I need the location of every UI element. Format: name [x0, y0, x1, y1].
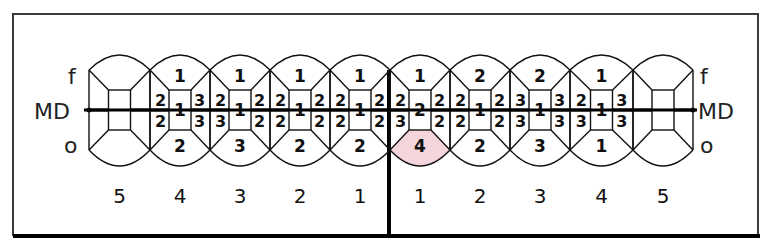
facial-arc [89, 55, 150, 70]
score-center: 1 [354, 100, 366, 120]
diag-top-left [89, 70, 109, 90]
score-md-left-top: 2 [576, 91, 587, 110]
diag-bottom-left [510, 130, 529, 150]
score-center: 1 [534, 100, 546, 120]
score-md-left-bottom: 2 [275, 112, 286, 131]
score-facial: 2 [474, 66, 486, 86]
score-md-left-top: 2 [275, 91, 286, 110]
tooth-right-5: 5 [633, 55, 693, 208]
tooth-number-label: 1 [414, 184, 427, 208]
diag-top-right [431, 70, 450, 90]
score-center: 1 [474, 100, 486, 120]
score-md-left-bottom: 3 [515, 112, 526, 131]
score-md-left-bottom: 3 [215, 112, 226, 131]
diag-top-left [210, 70, 229, 90]
diag-bottom-right [191, 130, 210, 150]
tooth-left-3: 13123223 [210, 55, 270, 208]
facial-arc [633, 55, 693, 70]
diag-bottom-right [551, 130, 570, 150]
score-md-left-top: 2 [395, 91, 406, 110]
score-md-right-bottom: 2 [314, 112, 325, 131]
tooth-left-5: 5 [89, 55, 150, 208]
diag-top-left [150, 70, 169, 90]
diag-bottom-left [570, 130, 591, 150]
score-md-right-bottom: 2 [494, 112, 505, 131]
diag-bottom-left [330, 130, 349, 150]
tooth-number-label: 1 [354, 184, 367, 208]
score-oral: 3 [234, 136, 246, 156]
diag-bottom-left [150, 130, 169, 150]
diag-bottom-left [89, 130, 109, 150]
tooth-left-2: 12122222 [270, 55, 330, 208]
score-md-left-top: 2 [215, 91, 226, 110]
score-md-right-top: 2 [494, 91, 505, 110]
score-md-right-top: 2 [314, 91, 325, 110]
diag-top-right [551, 70, 570, 90]
oral-arc [89, 150, 150, 166]
score-md-right-bottom: 3 [554, 112, 565, 131]
diag-top-right [131, 70, 151, 90]
tooth-right-4: 11123334 [570, 55, 633, 208]
score-facial: 1 [596, 66, 608, 86]
tooth-right-3: 23133333 [510, 55, 570, 208]
tooth-number-label: 2 [474, 184, 487, 208]
diag-bottom-right [251, 130, 270, 150]
diag-top-left [510, 70, 529, 90]
score-md-right-bottom: 2 [254, 112, 265, 131]
score-facial: 1 [414, 66, 426, 86]
tooth-number-label: 3 [234, 184, 247, 208]
score-md-right-top: 2 [434, 91, 445, 110]
label-md-left: MD [34, 99, 70, 124]
tooth-left-1: 12122221 [330, 55, 390, 208]
score-oral: 3 [534, 136, 546, 156]
tooth-left-4: 12122334 [150, 55, 210, 208]
tooth-right-1: 14223221 [390, 55, 450, 208]
score-facial: 1 [174, 66, 186, 86]
tooth-number-label: 2 [294, 184, 307, 208]
tooth-right-2: 22122222 [450, 55, 510, 208]
score-center: 1 [596, 100, 608, 120]
score-md-right-bottom: 3 [616, 112, 627, 131]
score-center: 1 [234, 100, 246, 120]
label-oral-left: o [64, 133, 77, 158]
diag-top-right [674, 70, 693, 90]
diag-bottom-left [450, 130, 469, 150]
diag-bottom-left [633, 130, 652, 150]
score-center: 2 [414, 100, 426, 120]
diag-top-right [251, 70, 270, 90]
score-facial: 1 [354, 66, 366, 86]
diag-top-right [191, 70, 210, 90]
score-md-left-bottom: 2 [155, 112, 166, 131]
score-facial: 1 [234, 66, 246, 86]
score-md-right-top: 2 [374, 91, 385, 110]
tooth-number-label: 3 [534, 184, 547, 208]
score-oral: 1 [596, 136, 608, 156]
score-md-right-top: 3 [554, 91, 565, 110]
score-md-left-bottom: 3 [576, 112, 587, 131]
score-md-left-bottom: 3 [395, 112, 406, 131]
tooth-number-label: 5 [113, 184, 126, 208]
score-md-right-bottom: 2 [374, 112, 385, 131]
diag-top-right [613, 70, 634, 90]
score-md-right-bottom: 3 [194, 112, 205, 131]
oral-arc [633, 150, 693, 166]
diag-bottom-right [491, 130, 510, 150]
diag-top-left [390, 70, 409, 90]
score-center: 1 [294, 100, 306, 120]
score-md-right-top: 2 [254, 91, 265, 110]
score-facial: 1 [294, 66, 306, 86]
diag-bottom-left [210, 130, 229, 150]
diag-top-left [633, 70, 652, 90]
tooth-number-label: 4 [174, 184, 187, 208]
diag-bottom-left [270, 130, 289, 150]
dental-chart: 5121223341312322312122222121222211422322… [0, 0, 778, 242]
score-oral: 2 [354, 136, 366, 156]
score-md-right-top: 3 [616, 91, 627, 110]
score-md-left-bottom: 2 [335, 112, 346, 131]
diag-bottom-right [311, 130, 330, 150]
score-oral: 4 [414, 136, 426, 156]
diag-top-left [570, 70, 591, 90]
score-oral: 2 [294, 136, 306, 156]
tooth-number-label: 4 [595, 184, 608, 208]
diag-bottom-right [674, 130, 693, 150]
